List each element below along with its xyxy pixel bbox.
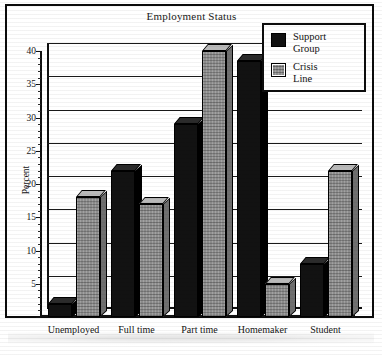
y-minor-tick: [38, 98, 41, 99]
bar-side: [352, 164, 359, 317]
y-minor-tick: [38, 104, 41, 105]
bar-side: [163, 198, 170, 317]
page-smudge: [8, 330, 374, 346]
legend-item-crisis-line: CrisisLine: [271, 61, 358, 84]
chart-page: Employment Status 510152025303540 Percen…: [0, 0, 382, 355]
y-tick-mark: [36, 51, 41, 52]
y-minor-tick: [38, 304, 41, 305]
y-minor-tick: [38, 237, 41, 238]
y-tick-label: 10: [16, 246, 36, 255]
y-minor-tick: [38, 277, 41, 278]
y-minor-tick: [38, 264, 41, 265]
y-minor-tick: [38, 164, 41, 165]
bar-part-time-support-group: [174, 124, 198, 317]
y-axis-label: Percent: [21, 166, 31, 195]
y-tick-label: 25: [16, 146, 36, 155]
y-tick-label: 40: [16, 47, 36, 56]
bar-student-crisis-line: [328, 171, 352, 317]
y-minor-tick: [38, 171, 41, 172]
y-minor-tick: [38, 124, 41, 125]
y-tick-mark: [36, 317, 41, 318]
y-minor-tick: [38, 310, 41, 311]
y-tick-label: 35: [16, 80, 36, 89]
bar-student-support-group: [300, 264, 324, 317]
y-tick-mark: [36, 284, 41, 285]
y-minor-tick: [38, 231, 41, 232]
y-minor-tick: [38, 257, 41, 258]
y-tick-mark: [36, 118, 41, 119]
bar-face: [265, 284, 289, 317]
y-tick-mark: [36, 251, 41, 252]
y-minor-tick: [38, 177, 41, 178]
y-minor-tick: [38, 290, 41, 291]
y-tick-mark: [36, 84, 41, 85]
y-minor-tick: [38, 58, 41, 59]
y-minor-tick: [38, 157, 41, 158]
chart-title: Employment Status: [7, 10, 376, 22]
y-minor-tick: [38, 211, 41, 212]
bar-homemaker-support-group: [237, 61, 261, 317]
y-minor-tick: [38, 224, 41, 225]
bar-face: [300, 264, 324, 317]
legend-item-support-group: SupportGroup: [271, 31, 358, 54]
bar-face: [174, 124, 198, 317]
y-minor-tick: [38, 131, 41, 132]
y-minor-tick: [38, 204, 41, 205]
bar-side: [289, 277, 296, 317]
y-minor-tick: [38, 91, 41, 92]
bar-part-time-crisis-line: [202, 51, 226, 317]
bar-face: [328, 171, 352, 317]
bar-homemaker-crisis-line: [265, 284, 289, 317]
y-minor-tick: [38, 191, 41, 192]
legend-swatch-crisis-line: [271, 63, 286, 77]
y-tick-label: 30: [16, 113, 36, 122]
bar-side: [226, 45, 233, 317]
bar-side: [100, 191, 107, 317]
y-minor-tick: [38, 64, 41, 65]
y-minor-tick: [38, 111, 41, 112]
bar-unemployed-support-group: [48, 304, 72, 317]
y-tick-mark: [36, 184, 41, 185]
y-minor-tick: [38, 137, 41, 138]
legend-label-crisis-line: CrisisLine: [293, 61, 318, 84]
chart-frame: Employment Status 510152025303540 Percen…: [5, 4, 374, 318]
y-tick-mark: [36, 151, 41, 152]
bar-face: [48, 304, 72, 317]
bar-face: [237, 61, 261, 317]
legend-label-support-group: SupportGroup: [293, 31, 326, 54]
bar-full-time-crisis-line: [139, 204, 163, 317]
y-minor-tick: [38, 197, 41, 198]
y-minor-tick: [38, 144, 41, 145]
y-tick-label: 15: [16, 213, 36, 222]
y-minor-tick: [38, 297, 41, 298]
y-minor-tick: [38, 244, 41, 245]
y-minor-tick: [38, 78, 41, 79]
chart-legend: SupportGroup CrisisLine: [262, 23, 366, 92]
legend-swatch-support-group: [271, 33, 286, 47]
bar-full-time-support-group: [111, 171, 135, 317]
y-minor-tick: [38, 71, 41, 72]
bar-face: [111, 171, 135, 317]
y-tick-label: 5: [16, 279, 36, 288]
bar-face: [139, 204, 163, 317]
y-minor-tick: [38, 270, 41, 271]
y-tick-mark: [36, 217, 41, 218]
bar-side: [261, 55, 268, 317]
bar-unemployed-crisis-line: [76, 197, 100, 317]
bar-face: [76, 197, 100, 317]
bar-face: [202, 51, 226, 317]
